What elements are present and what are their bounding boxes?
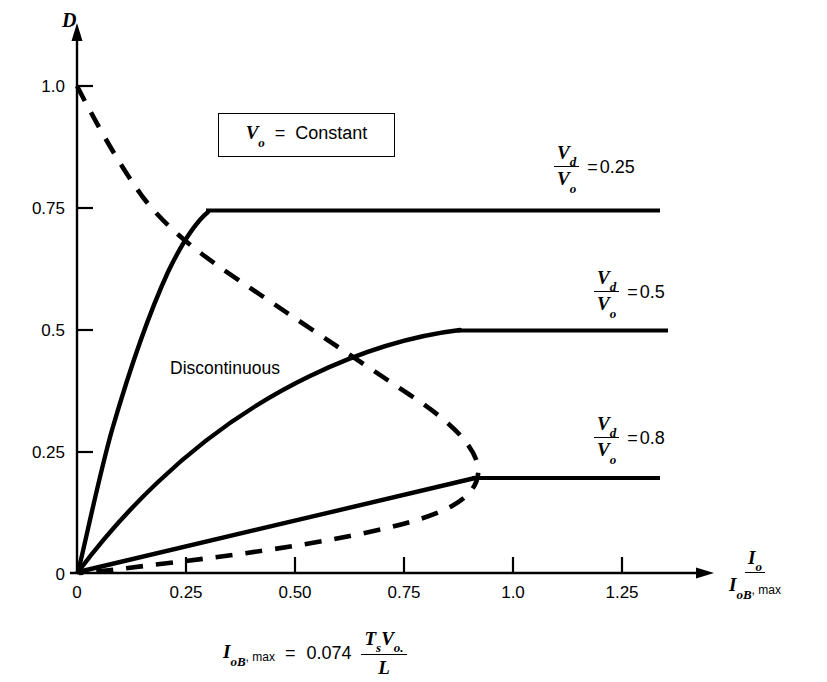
y-tick-label-075: 0.75	[32, 199, 65, 218]
series-label-05: Vd Vo = 0.5	[594, 268, 665, 317]
x-tick-label-125: 1.25	[605, 583, 638, 602]
x-axis-label-fraction: Io IoB, max	[726, 548, 784, 598]
series-label-08-fraction: Vd Vo	[594, 414, 619, 463]
discontinuous-label: Discontinuous	[170, 358, 280, 379]
y-axis	[72, 23, 83, 573]
x-axis	[70, 568, 714, 579]
series-label-05-equals: =	[627, 283, 638, 301]
x-tick-label-075: 0.75	[387, 583, 420, 602]
caption: IoB, max = 0.074 TsVo. L	[223, 628, 413, 679]
series-curve-025	[78, 211, 660, 573]
series-label-025-equals: =	[587, 158, 598, 176]
series-label-025: Vd Vo = 0.25	[554, 143, 635, 192]
vo-constant-text: Vo = Constant	[246, 122, 368, 148]
y-tick-label-05: 0.5	[41, 321, 65, 340]
chart-canvas: 1.0 0.75 0.5 0.25 0 0 0.25 0.50 0.75 1.0…	[0, 0, 827, 682]
x-tick-label-025: 0.25	[169, 583, 202, 602]
series-curve-08	[78, 478, 660, 572]
y-axis-ticks	[77, 86, 93, 452]
series-label-025-value: 0.25	[600, 158, 635, 176]
x-tick-label-050: 0.50	[278, 583, 311, 602]
series-label-05-fraction: Vd Vo	[594, 268, 619, 317]
series-label-08-equals: =	[627, 429, 638, 447]
x-axis-label: Io IoB, max	[726, 548, 790, 598]
series-label-025-fraction: Vd Vo	[554, 143, 579, 192]
series-label-08-value: 0.8	[640, 429, 665, 447]
x-tick-label-10: 1.0	[501, 583, 525, 602]
chart-figure: 1.0 0.75 0.5 0.25 0 0 0.25 0.50 0.75 1.0…	[0, 0, 827, 682]
y-tick-label-1: 1.0	[41, 77, 65, 96]
series-curve-05	[78, 330, 668, 572]
y-tick-label-025: 0.25	[32, 443, 65, 462]
x-axis-ticks	[186, 557, 622, 573]
x-tick-label-0: 0	[72, 583, 81, 602]
caption-equals: =	[285, 643, 296, 664]
caption-lead: IoB, max	[223, 640, 275, 667]
caption-coefficient: 0.074	[306, 643, 351, 664]
caption-fraction: TsVo. L	[361, 628, 406, 679]
y-axis-label: D	[61, 9, 76, 31]
vo-constant-box: Vo = Constant	[218, 113, 395, 157]
series-label-05-value: 0.5	[640, 283, 665, 301]
series-label-08: Vd Vo = 0.8	[594, 414, 665, 463]
y-tick-label-0: 0	[56, 565, 65, 584]
